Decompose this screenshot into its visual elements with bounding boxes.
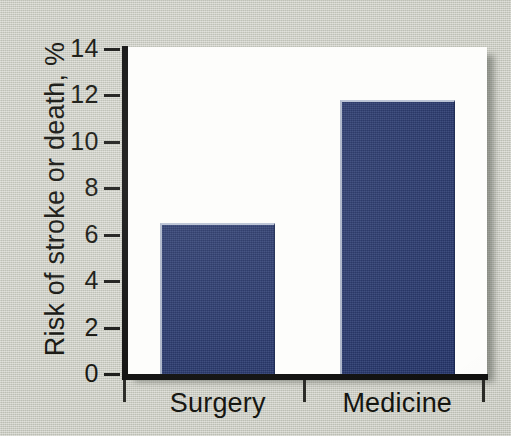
chart-figure: 14121086420 SurgeryMedicine Risk of stro… bbox=[0, 0, 511, 436]
y-tick-mark bbox=[104, 48, 120, 51]
x-tick-mark bbox=[123, 380, 126, 402]
x-axis-label-medicine: Medicine bbox=[308, 388, 488, 418]
y-axis-title: Risk of stroke or death, % bbox=[40, 34, 70, 364]
y-axis-line bbox=[122, 46, 128, 380]
y-tick-mark bbox=[104, 187, 120, 190]
x-axis-label-surgery: Surgery bbox=[128, 388, 308, 418]
y-tick-mark bbox=[104, 327, 120, 330]
y-tick-mark bbox=[104, 234, 120, 237]
y-tick-mark bbox=[104, 94, 120, 97]
y-tick-mark bbox=[104, 373, 120, 376]
bar-surgery bbox=[160, 223, 275, 374]
y-tick-mark bbox=[104, 280, 120, 283]
y-tick-label: 0 bbox=[55, 361, 99, 386]
y-tick-mark bbox=[104, 141, 120, 144]
bar-medicine bbox=[340, 100, 455, 374]
